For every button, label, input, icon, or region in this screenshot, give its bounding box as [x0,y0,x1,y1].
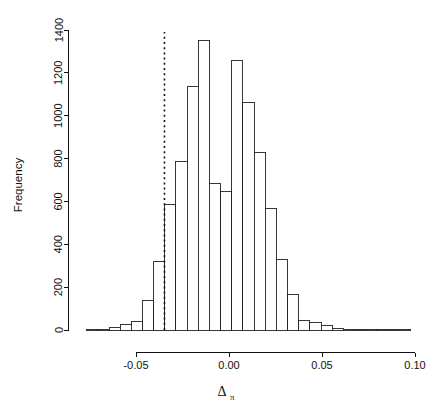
y-axis-tick-labels: 0200400600800100012001400 [53,18,65,333]
x-axis-tick-label: 0.10 [404,359,425,371]
histogram-bar [276,260,287,330]
histogram-bar [109,327,120,330]
histogram-bar [187,86,198,330]
histogram-bar [254,152,265,330]
histogram-bar [243,102,254,330]
histogram-bar [343,329,354,330]
histogram-bar [299,320,310,330]
histogram-bar [366,330,377,331]
y-axis-tick-label: 1200 [53,61,65,85]
histogram-bar [87,329,98,330]
bars-group [87,41,411,331]
y-axis-tick-label: 800 [53,149,65,167]
y-axis-tick-label: 1000 [53,103,65,127]
histogram-bar [154,261,165,330]
y-axis-tick-label: 1400 [53,18,65,42]
histogram-bar [221,192,232,330]
histogram-bar [143,300,154,330]
y-axis-tick-label: 0 [53,327,65,333]
y-axis-tick-label: 400 [53,235,65,253]
histogram-bar [310,323,321,330]
x-axis-title-base: Δ [217,384,226,399]
x-axis-tick-label: 0.05 [311,359,332,371]
y-axis-tick-marks [64,30,69,330]
histogram-bar [321,325,332,330]
y-axis-tick-label: 600 [53,192,65,210]
histogram-bar [209,183,220,330]
x-axis-tick-label: 0.00 [218,359,239,371]
histogram-bar [198,41,209,330]
histogram-bar [288,294,299,330]
y-axis-tick-label: 200 [53,278,65,296]
x-axis-title-subscript: π [230,392,235,402]
histogram-bar [232,60,243,330]
histogram-figure: 0200400600800100012001400 -0.050.000.050… [0,0,443,416]
histogram-bar [399,330,410,331]
histogram-bar [131,322,142,330]
histogram-bar [98,329,109,330]
x-axis-tick-label: -0.05 [123,359,148,371]
histogram-bar [176,162,187,330]
histogram-bar [120,324,131,330]
histogram-bar [377,330,388,331]
histogram-bar [165,205,176,330]
plot-canvas: 0200400600800100012001400 -0.050.000.050… [0,0,443,416]
x-axis-tick-marks [136,353,415,358]
histogram-bar [265,209,276,330]
histogram-bar [332,329,343,330]
histogram-bar [388,330,399,331]
y-axis: 0200400600800100012001400 [53,18,69,333]
histogram-bar [355,330,366,331]
y-axis-title: Frequency [12,158,24,213]
x-axis: -0.050.000.050.10 [123,353,425,371]
x-axis-title: Δ π [217,384,235,402]
x-axis-tick-labels: -0.050.000.050.10 [123,359,425,371]
